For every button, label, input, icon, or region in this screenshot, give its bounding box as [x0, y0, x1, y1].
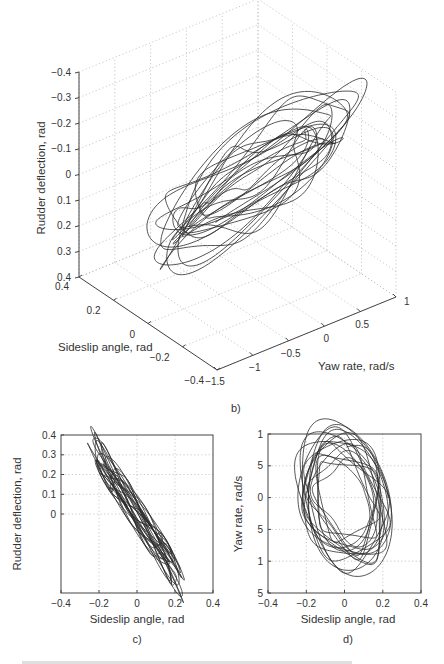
grid-c [61, 435, 213, 593]
gridline [222, 219, 360, 312]
tick-label: 1 [404, 296, 410, 307]
tick-label: 0.3 [42, 449, 56, 460]
gridline [258, 0, 396, 92]
plot-d-yawrate-vs-sideslip: −0.4−0.200.20.4150515 Yaw rate, rad/s Si… [232, 419, 428, 645]
tick-label: −0.2 [89, 598, 109, 609]
tick-label: 5 [257, 460, 263, 471]
gridline [258, 102, 396, 195]
y-axis-label-c: Rudder deflection, rad [11, 457, 23, 570]
tick-mark [75, 123, 79, 124]
tick-mark [75, 175, 79, 176]
x-axis-label-sideslip: Sideslip angle, rad [58, 341, 153, 353]
tick-label: −0.1 [51, 143, 71, 154]
tick-mark [183, 345, 186, 347]
x-axis-label-c: Sideslip angle, rad [90, 613, 185, 625]
figure-canvas: 0.40.30.20.10−0.1−0.2−0.3−0.40.40.20−0.2… [0, 0, 444, 664]
gridline [258, 50, 396, 143]
panel-label-c: c) [132, 633, 141, 645]
tick-label: −0.4 [36, 0, 56, 2]
trajectory-c [87, 426, 184, 602]
tick-mark [75, 98, 79, 99]
tick-label: −1.5 [205, 376, 225, 387]
tick-mark [393, 294, 396, 297]
tick-mark [75, 277, 79, 278]
gridline [148, 251, 327, 324]
z-axis-label: Rudder deflection, rad [35, 121, 47, 234]
tick-label: 0.4 [206, 598, 220, 609]
tick-label: −0.4 [184, 375, 204, 386]
tick-mark [75, 251, 79, 252]
tick-label: −0.4 [258, 598, 278, 609]
trajectory-path [87, 426, 184, 602]
tick-mark [75, 149, 79, 150]
tick-label: 0.2 [87, 305, 101, 316]
tick-label: −0.5 [281, 348, 301, 359]
tick-label: 0 [324, 333, 330, 344]
tick-label: −0.2 [296, 598, 316, 609]
tick-mark [321, 323, 324, 326]
tick-label: 0 [65, 169, 71, 180]
tick-label: −0.4 [51, 598, 71, 609]
tick-label: 0.1 [57, 195, 71, 206]
tick-label: 5 [257, 588, 263, 599]
tick-label: −0.2 [51, 118, 71, 129]
tick-mark [357, 309, 360, 312]
tick-label: 0.2 [168, 598, 182, 609]
tick-label: 1 [257, 429, 263, 440]
tick-mark [75, 226, 79, 227]
gridline [151, 248, 289, 341]
trajectory-path [295, 419, 393, 577]
tick-label: 5 [257, 524, 263, 535]
tick-label: −0.2 [150, 352, 170, 363]
tick-mark [286, 338, 289, 341]
tick-label: 0 [129, 329, 135, 340]
grid-d [268, 434, 421, 593]
tick-label: 0.3 [57, 246, 71, 257]
y-axis-label-yaw: Yaw rate, rad/s [318, 360, 395, 372]
grid-3d [79, 0, 396, 370]
tick-mark [75, 72, 79, 73]
tick-label: 0.5 [355, 319, 369, 330]
tick-label: −0.3 [51, 92, 71, 103]
tick-label: 0.2 [57, 220, 71, 231]
tick-label: 0.2 [42, 469, 56, 480]
y-axis-label-d: Yaw rate, rad/s [232, 476, 244, 553]
tick-mark [75, 200, 79, 201]
panel-label-b: b) [231, 402, 241, 414]
gridline [186, 233, 324, 326]
tick-mark [114, 298, 117, 300]
tick-label: −1 [249, 362, 261, 373]
plot-3d-phase-trajectory: 0.40.30.20.10−0.1−0.2−0.3−0.40.40.20−0.2… [35, 0, 410, 414]
trajectory-d [295, 419, 393, 577]
tick-mark [250, 352, 253, 355]
tick-label: 0 [134, 598, 140, 609]
x-axis-label-d: Sideslip angle, rad [301, 613, 396, 625]
tick-label: 0 [342, 598, 348, 609]
tick-label: −0.4 [51, 67, 71, 78]
gridline [79, 0, 258, 72]
tick-mark [148, 322, 151, 324]
gridline [183, 274, 362, 347]
tick-label: 0.4 [414, 598, 428, 609]
tick-label: 0.1 [42, 489, 56, 500]
plot-c-rudder-vs-sideslip: −0.4−0.200.20.40.40.30.20.10−0.1−0.2−0.3… [11, 0, 220, 645]
ticks-d: −0.4−0.200.20.4150515 [257, 429, 428, 610]
tick-label: 0 [257, 492, 263, 503]
tick-label: 0.4 [55, 281, 69, 292]
tick-label: 0.2 [376, 598, 390, 609]
tick-label: 1 [257, 556, 263, 567]
panel-label-d: d) [343, 633, 353, 645]
ticks-3d: 0.40.30.20.10−0.1−0.2−0.3−0.40.40.20−0.2… [51, 67, 410, 388]
tick-label: 0 [50, 509, 56, 520]
tick-label: 0.4 [42, 430, 56, 441]
